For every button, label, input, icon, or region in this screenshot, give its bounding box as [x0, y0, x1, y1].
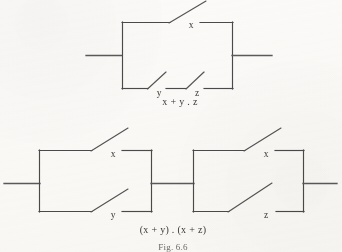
- switch-z-bottom-right[interactable]: z: [193, 183, 304, 220]
- circuit-top: x y z x + y . z: [86, 1, 272, 107]
- switch-x-top[interactable]: x: [122, 1, 233, 30]
- switch-x-bottom-left-label: x: [111, 149, 116, 159]
- switch-z-top[interactable]: z: [186, 72, 233, 98]
- block-right-bottom: x z: [193, 128, 304, 220]
- switch-z-bottom-right-label: z: [264, 210, 268, 220]
- expression-bottom: (x + y) . (x + z): [140, 224, 207, 236]
- block-left-bottom: x y: [39, 128, 152, 220]
- switch-x-top-blade: [169, 1, 206, 23]
- switch-y-bottom-left-label: y: [111, 210, 116, 220]
- figure-container: x y z x + y . z: [0, 0, 342, 252]
- switch-x-bottom-right-blade: [244, 128, 281, 151]
- switch-z-bottom-right-blade: [228, 183, 272, 212]
- switch-y-top[interactable]: y: [122, 72, 186, 98]
- switching-circuit-figure: x y z x + y . z: [0, 0, 342, 252]
- switch-z-top-blade: [186, 72, 204, 89]
- switch-x-bottom-right[interactable]: x: [193, 128, 304, 159]
- circuit-bottom: x y x: [4, 128, 337, 236]
- switch-y-top-label: y: [157, 88, 162, 98]
- switch-x-top-label: x: [189, 20, 194, 30]
- expression-top: x + y . z: [162, 96, 198, 107]
- figure-caption: Fig. 6.6: [158, 242, 188, 252]
- switch-y-bottom-left-blade: [91, 189, 128, 212]
- switch-y-bottom-left[interactable]: y: [39, 189, 152, 220]
- switch-x-bottom-left-blade: [91, 128, 128, 151]
- switch-y-top-blade: [148, 72, 167, 89]
- switch-x-bottom-right-label: x: [264, 149, 269, 159]
- switch-x-bottom-left[interactable]: x: [39, 128, 152, 159]
